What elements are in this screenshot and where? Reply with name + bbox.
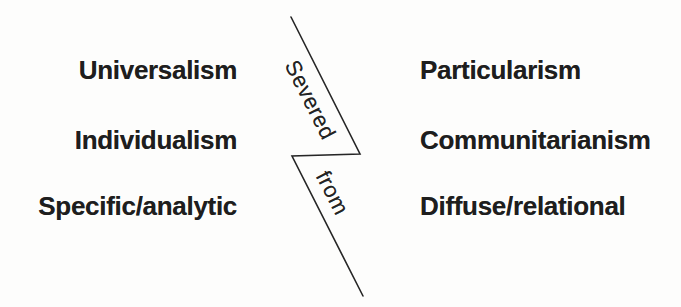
right-label-particularism: Particularism	[420, 56, 581, 84]
left-label-universalism: Universalism	[79, 56, 237, 84]
severed-concepts-diagram: Universalism Individualism Specific/anal…	[0, 0, 681, 307]
divider-word-from: from	[310, 167, 354, 220]
right-label-diffuse-relational: Diffuse/relational	[420, 192, 626, 220]
left-label-specific-analytic: Specific/analytic	[38, 192, 237, 220]
right-label-communitarianism: Communitarianism	[420, 126, 651, 154]
divider-word-severed: Severed	[279, 56, 341, 144]
left-label-individualism: Individualism	[75, 126, 237, 154]
